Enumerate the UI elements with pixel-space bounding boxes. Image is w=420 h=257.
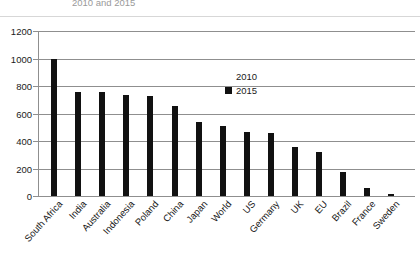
legend-label: 2010 [236, 71, 257, 82]
x-axis-label: World [209, 199, 233, 224]
legend-label: 2015 [236, 85, 257, 96]
plot-area: 120010008006004002000 South AfricaIndiaA… [0, 0, 420, 257]
chart-legend: 20102015 [225, 69, 295, 97]
x-axis-label: UK [289, 199, 305, 216]
legend-item[interactable]: 2015 [225, 83, 295, 97]
x-axis-label: China [161, 199, 185, 224]
x-axis-label: Japan [184, 199, 209, 225]
legend-swatch-icon [225, 73, 232, 80]
x-axis-labels: South AfricaIndiaAustraliaIndonesiaPolan… [0, 0, 420, 257]
x-axis-label: South Africa [23, 199, 65, 244]
x-axis-label: US [241, 199, 257, 216]
x-axis-label: EU [313, 199, 329, 216]
x-axis-label: Poland [134, 199, 161, 228]
legend-item[interactable]: 2010 [225, 69, 295, 83]
bar-chart: 2010 and 2015 120010008006004002000 Sout… [0, 0, 420, 257]
legend-swatch-icon [225, 87, 232, 94]
